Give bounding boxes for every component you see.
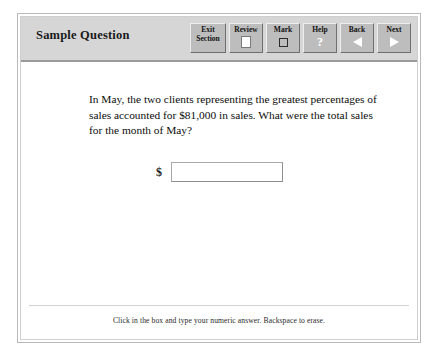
help-button[interactable]: Help ?: [303, 23, 337, 53]
help-button-label: Help: [312, 26, 327, 35]
answer-row: $: [156, 162, 283, 182]
question-text: In May, the two clients representing the…: [89, 92, 381, 139]
exit-section-button-label-line2: Section: [196, 35, 219, 44]
footer-divider: [29, 305, 409, 306]
back-button[interactable]: Back: [340, 23, 374, 53]
review-button[interactable]: Review: [229, 23, 263, 53]
mark-button[interactable]: Mark: [266, 23, 300, 53]
currency-symbol: $: [156, 165, 162, 180]
back-button-label: Back: [349, 26, 365, 35]
question-body: In May, the two clients representing the…: [21, 62, 417, 339]
review-button-label: Review: [234, 26, 257, 35]
question-mark-icon: ?: [317, 37, 323, 48]
header-bar: Sample Question Exit Section Review Mark…: [21, 17, 417, 62]
next-button[interactable]: Next: [377, 23, 411, 53]
exit-section-button[interactable]: Exit Section: [190, 23, 226, 53]
toolbar: Exit Section Review Mark Help ? Back: [190, 23, 411, 53]
mark-button-label: Mark: [274, 26, 292, 35]
question-window-inner: Sample Question Exit Section Review Mark…: [20, 16, 418, 340]
footer-instruction: Click in the box and type your numeric a…: [21, 316, 417, 325]
numeric-answer-input[interactable]: [171, 162, 283, 182]
checkbox-icon: [279, 37, 288, 48]
triangle-left-icon: [353, 37, 362, 48]
page-icon: [241, 37, 251, 48]
triangle-right-icon: [390, 37, 399, 48]
question-window: Sample Question Exit Section Review Mark…: [17, 13, 421, 343]
page-title: Sample Question: [36, 28, 130, 43]
next-button-label: Next: [387, 26, 402, 35]
